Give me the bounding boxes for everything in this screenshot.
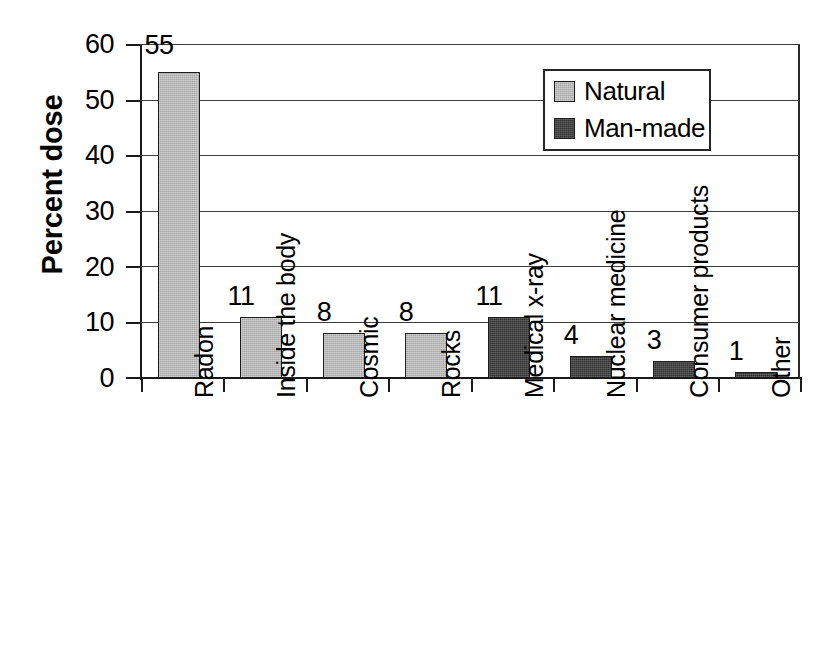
x-label-inside-the-body: Inside the body [274,233,299,398]
bar-chart: Percent dose 60 50 40 30 20 10 0 55 11 8… [0,0,834,646]
y-tick-label-10: 10 [62,309,114,336]
y-tick-label-30: 30 [62,198,114,225]
legend-swatch-natural-icon [554,81,575,102]
y-tick-label-20: 20 [62,254,114,281]
x-tick-mark-6 [636,379,638,392]
legend-label-natural: Natural [584,78,665,104]
x-tick-mark-4 [471,379,473,392]
bar-value-radon: 55 [118,32,200,59]
gridline-60 [140,44,800,45]
y-tick-label-40: 40 [62,142,114,169]
bar-value-inside-the-body: 11 [200,283,282,310]
legend-item-natural: Natural [554,78,665,104]
y-tick-label-50: 50 [62,87,114,114]
x-label-cosmic: Cosmic [357,316,382,398]
x-tick-mark-1 [223,379,225,392]
y-tick-label-60: 60 [62,31,114,58]
x-label-rocks: Rocks [439,330,464,398]
x-label-other: Other [769,337,794,398]
x-label-nuclear-medicine: Nuclear medicine [604,210,629,398]
legend-item-man-made: Man-made [554,115,705,141]
x-tick-mark-3 [388,379,390,392]
legend-label-man-made: Man-made [584,115,705,141]
x-tick-mark-8 [800,379,802,392]
legend: Natural Man-made [543,69,711,151]
x-tick-mark-0 [141,379,143,392]
y-tick-label-0: 0 [62,365,114,392]
bar-value-medical-x-ray: 11 [448,283,530,310]
x-tick-mark-2 [306,379,308,392]
x-tick-mark-5 [553,379,555,392]
gridline-40 [140,155,800,156]
x-label-radon: Radon [192,326,217,398]
x-label-consumer-products: Consumer products [687,185,712,398]
x-tick-mark-7 [718,379,720,392]
x-label-medical-x-ray: Medical x-ray [522,253,547,398]
legend-swatch-man-made-icon [554,118,575,139]
